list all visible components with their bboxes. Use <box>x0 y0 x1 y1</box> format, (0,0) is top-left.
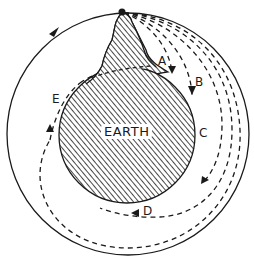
label-B: B <box>195 76 203 88</box>
label-A: A <box>158 55 166 67</box>
earth-label: EARTH <box>101 124 152 139</box>
label-E: E <box>52 93 60 105</box>
label-C: C <box>199 127 207 139</box>
cannon-icon <box>119 9 126 16</box>
arrow-A-icon <box>168 66 176 74</box>
label-D: D <box>143 205 152 217</box>
